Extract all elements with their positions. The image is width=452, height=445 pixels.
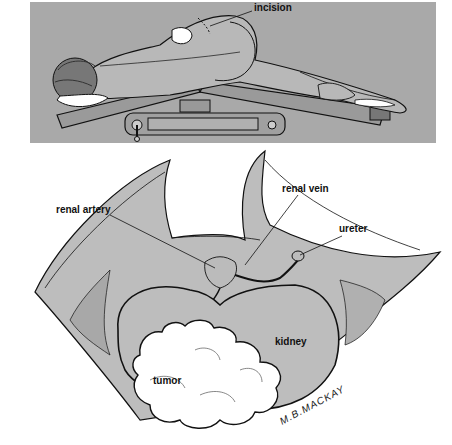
- patient-arm: [172, 28, 192, 44]
- tumor-label: tumor: [153, 375, 181, 386]
- patient-positioning-illustration: incision: [30, 2, 436, 143]
- figure: incision renal artery renal vein uret: [0, 0, 452, 445]
- surgical-field-illustration: renal artery renal vein ureter kidney tu…: [35, 151, 440, 428]
- renal-artery-label: renal artery: [56, 204, 111, 215]
- ureter-label: ureter: [339, 223, 367, 234]
- incision-label: incision: [254, 2, 292, 13]
- renal-vein-label: renal vein: [282, 183, 329, 194]
- ureter-stump: [292, 251, 304, 261]
- kidney-label: kidney: [275, 336, 307, 347]
